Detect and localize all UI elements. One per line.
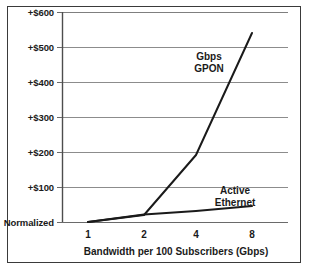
x-tick-label-8: 8 — [240, 229, 264, 240]
x-tick-label-2: 2 — [132, 229, 156, 240]
series-annotation-active-ethernet-line2: Ethernet — [204, 197, 266, 209]
series-annotation-gbps-gpon-line1: Gbps — [186, 51, 232, 63]
series-annotation-active-ethernet: Active Ethernet — [204, 185, 266, 209]
y-tick-label-100: +$100 — [2, 182, 54, 193]
y-tick-label-300: +$300 — [2, 112, 54, 123]
series-annotation-active-ethernet-line1: Active — [204, 185, 266, 197]
y-tick-label-200: +$200 — [2, 147, 54, 158]
y-tick-label-normalized: Normalized — [1, 217, 54, 228]
y-tick-marks — [57, 13, 62, 223]
y-tick-label-500: +$500 — [2, 42, 54, 53]
x-tick-label-1: 1 — [76, 229, 100, 240]
gridlines — [62, 13, 288, 188]
chart-figure: +$600 +$500 +$400 +$300 +$200 +$100 Norm… — [0, 0, 311, 273]
x-axis-title: Bandwidth per 100 Subscribers (Gbps) — [62, 246, 290, 257]
y-tick-label-600: +$600 — [2, 7, 54, 18]
series-annotation-gbps-gpon: Gbps GPON — [186, 51, 232, 75]
x-tick-label-4: 4 — [184, 229, 208, 240]
y-tick-label-400: +$400 — [2, 77, 54, 88]
series-annotation-gbps-gpon-line2: GPON — [186, 63, 232, 75]
